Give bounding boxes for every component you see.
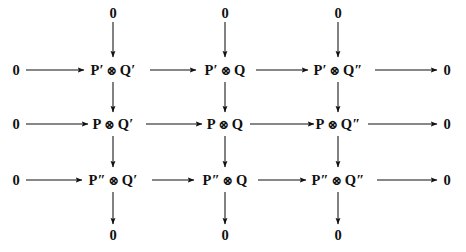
zero-left-row2: 0: [12, 117, 19, 132]
commutative-diagram: 0 0 0 0 0 0 0 0 0 P′ ⊗ Q′ P′ ⊗ Q P′ ⊗ Q″…: [0, 0, 466, 252]
node-r1c1-left-term: P′: [90, 63, 103, 78]
node-r3c2-right-term: Q: [236, 173, 247, 188]
zero-right-row3: 0: [443, 173, 450, 188]
zero-bottom-col1: 0: [109, 228, 116, 243]
node-r2c2-left-term: P: [207, 117, 216, 132]
node-r3c3-left-term: P″: [311, 173, 328, 188]
node-r1c3-right-term: Q″: [343, 63, 363, 78]
zero-top-col2: 0: [221, 6, 228, 21]
node-r3c3: P″ ⊗ Q″: [311, 173, 364, 188]
node-r3c1: P″ ⊗ Q′: [88, 173, 137, 188]
tensor-icon: ⊗: [102, 118, 118, 131]
node-r3c1-left-term: P″: [88, 173, 105, 188]
node-r1c2-left-term: P′: [205, 63, 218, 78]
node-r2c3-left-term: P: [316, 117, 325, 132]
node-r3c1-right-term: Q′: [122, 173, 138, 188]
node-r1c2: P′ ⊗ Q: [205, 63, 246, 78]
tensor-icon: ⊗: [104, 64, 120, 77]
node-r2c2: P ⊗ Q: [207, 117, 244, 132]
node-r2c3: P ⊗ Q″: [316, 117, 361, 132]
node-r1c3: P′ ⊗ Q″: [313, 63, 362, 78]
tensor-icon: ⊗: [329, 174, 345, 187]
node-r3c3-right-term: Q″: [345, 173, 365, 188]
tensor-icon: ⊗: [327, 64, 343, 77]
zero-bottom-col2: 0: [221, 228, 228, 243]
tensor-icon: ⊗: [325, 118, 341, 131]
node-r3c2: P″ ⊗ Q: [203, 173, 248, 188]
node-r2c2-right-term: Q: [232, 117, 243, 132]
node-r2c1-left-term: P: [93, 117, 102, 132]
zero-left-row1: 0: [12, 63, 19, 78]
zero-top-col1: 0: [109, 6, 116, 21]
node-r1c2-right-term: Q: [234, 63, 245, 78]
tensor-icon: ⊗: [220, 174, 236, 187]
zero-left-row3: 0: [12, 173, 19, 188]
tensor-icon: ⊗: [216, 118, 232, 131]
node-r2c1: P ⊗ Q′: [93, 117, 134, 132]
tensor-icon: ⊗: [218, 64, 234, 77]
zero-top-col3: 0: [334, 6, 341, 21]
zero-right-row2: 0: [443, 117, 450, 132]
node-r3c2-left-term: P″: [203, 173, 220, 188]
node-r2c3-right-term: Q″: [341, 117, 361, 132]
zero-bottom-col3: 0: [334, 228, 341, 243]
node-r1c1-right-term: Q′: [120, 63, 136, 78]
node-r1c3-left-term: P′: [313, 63, 326, 78]
zero-right-row1: 0: [443, 63, 450, 78]
node-r2c1-right-term: Q′: [118, 117, 134, 132]
node-r1c1: P′ ⊗ Q′: [90, 63, 135, 78]
tensor-icon: ⊗: [106, 174, 122, 187]
